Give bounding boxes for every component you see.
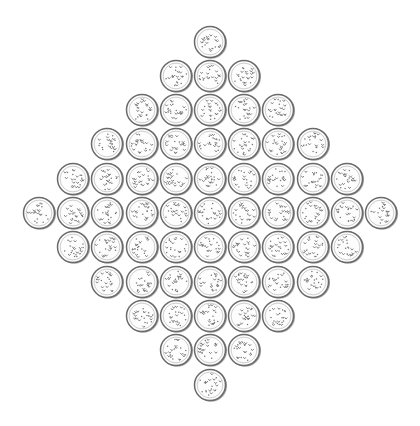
textured-disc	[56, 196, 90, 230]
textured-disc	[159, 59, 193, 93]
textured-disc	[193, 127, 227, 161]
disc-icon	[125, 162, 159, 196]
textured-disc	[193, 333, 227, 367]
disc-icon	[159, 162, 193, 196]
disc-icon	[227, 265, 261, 299]
disc-icon	[261, 196, 295, 230]
disc-icon	[296, 196, 330, 230]
textured-disc	[261, 127, 295, 161]
disc-icon	[227, 127, 261, 161]
disc-icon	[227, 59, 261, 93]
textured-disc	[125, 162, 159, 196]
textured-disc	[193, 25, 227, 59]
textured-disc	[159, 230, 193, 264]
textured-disc	[296, 230, 330, 264]
textured-disc	[159, 333, 193, 367]
textured-disc	[227, 93, 261, 127]
disc-icon	[227, 299, 261, 333]
textured-disc	[90, 127, 124, 161]
disc-icon	[159, 265, 193, 299]
disc-icon	[261, 265, 295, 299]
textured-disc	[227, 162, 261, 196]
disc-icon	[90, 127, 124, 161]
textured-disc	[330, 196, 364, 230]
textured-disc	[227, 196, 261, 230]
textured-disc	[22, 196, 56, 230]
textured-disc	[364, 196, 398, 230]
disc-icon	[364, 196, 398, 230]
textured-disc	[125, 196, 159, 230]
disc-icon	[330, 230, 364, 264]
disc-icon	[125, 196, 159, 230]
disc-icon	[159, 59, 193, 93]
textured-disc	[90, 230, 124, 264]
disc-icon	[125, 299, 159, 333]
textured-disc	[330, 230, 364, 264]
disc-icon	[90, 162, 124, 196]
textured-disc	[125, 230, 159, 264]
textured-disc	[296, 127, 330, 161]
disc-icon	[159, 196, 193, 230]
disc-icon	[330, 162, 364, 196]
disc-icon	[56, 230, 90, 264]
textured-disc	[193, 299, 227, 333]
textured-disc	[125, 127, 159, 161]
disc-icon	[296, 230, 330, 264]
disc-icon	[159, 299, 193, 333]
textured-disc	[227, 265, 261, 299]
disc-icon	[193, 299, 227, 333]
textured-disc	[193, 93, 227, 127]
disc-icon	[193, 368, 227, 402]
textured-disc	[296, 265, 330, 299]
disc-icon	[125, 93, 159, 127]
textured-disc	[193, 196, 227, 230]
textured-disc	[227, 59, 261, 93]
disc-icon	[56, 162, 90, 196]
disc-icon	[296, 162, 330, 196]
disc-icon	[296, 127, 330, 161]
disc-icon	[193, 25, 227, 59]
textured-disc	[296, 162, 330, 196]
disc-icon	[261, 299, 295, 333]
disc-icon	[227, 93, 261, 127]
textured-disc	[56, 230, 90, 264]
disc-icon	[159, 230, 193, 264]
textured-disc	[125, 265, 159, 299]
textured-disc	[227, 127, 261, 161]
disc-icon	[193, 230, 227, 264]
disc-icon	[125, 127, 159, 161]
textured-disc	[261, 299, 295, 333]
disc-icon	[227, 162, 261, 196]
disc-icon	[90, 265, 124, 299]
disc-icon	[193, 162, 227, 196]
disc-icon	[193, 196, 227, 230]
disc-icon	[261, 127, 295, 161]
textured-disc	[90, 196, 124, 230]
disc-icon	[125, 230, 159, 264]
disc-icon	[193, 333, 227, 367]
textured-disc	[261, 196, 295, 230]
textured-disc	[159, 162, 193, 196]
textured-disc	[193, 59, 227, 93]
disc-icon	[193, 59, 227, 93]
disc-icon	[159, 93, 193, 127]
textured-disc	[227, 299, 261, 333]
disc-icon	[296, 265, 330, 299]
textured-disc	[261, 162, 295, 196]
textured-disc	[296, 196, 330, 230]
textured-disc	[193, 162, 227, 196]
disc-icon	[90, 230, 124, 264]
textured-disc	[193, 368, 227, 402]
textured-disc	[159, 196, 193, 230]
textured-disc	[227, 230, 261, 264]
textured-disc	[193, 265, 227, 299]
disc-icon	[193, 93, 227, 127]
textured-disc	[330, 162, 364, 196]
textured-disc	[159, 127, 193, 161]
disc-icon	[227, 196, 261, 230]
disc-diamond-canvas	[0, 0, 420, 426]
textured-disc	[193, 230, 227, 264]
textured-disc	[261, 230, 295, 264]
textured-disc	[125, 299, 159, 333]
textured-disc	[159, 299, 193, 333]
